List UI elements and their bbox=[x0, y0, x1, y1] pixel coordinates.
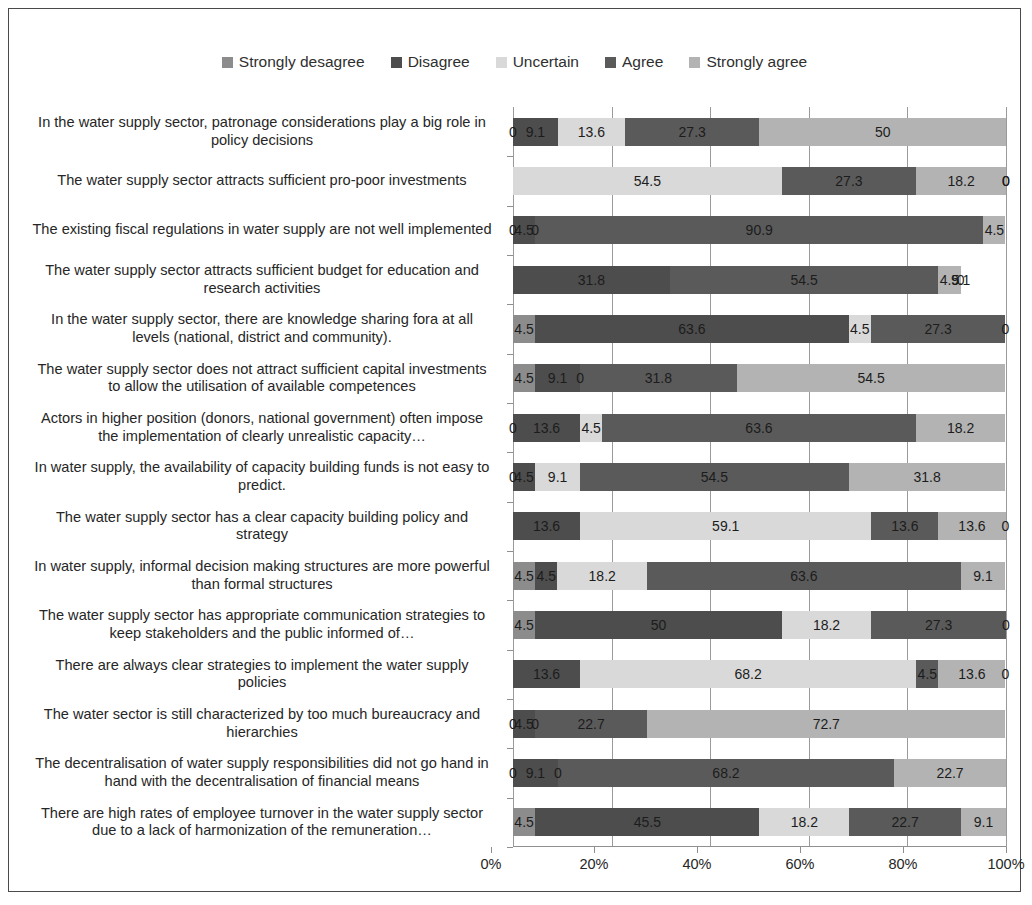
value-tick-label: 40% bbox=[682, 856, 711, 872]
value-axis: 0%20%40%60%80%100% bbox=[491, 847, 1006, 887]
bar-value-label: 63.6 bbox=[678, 321, 705, 337]
legend-item[interactable]: Strongly agree bbox=[689, 53, 807, 71]
bar-value-label: 18.2 bbox=[947, 173, 974, 189]
bar-value-label: 54.5 bbox=[790, 272, 817, 288]
value-tick-mark bbox=[697, 847, 698, 853]
bar-value-label: 18.2 bbox=[791, 814, 818, 830]
legend-label: Uncertain bbox=[513, 53, 579, 71]
value-tick-label: 20% bbox=[579, 856, 608, 872]
chart-frame: Strongly desagreeDisagreeUncertainAgreeS… bbox=[8, 8, 1021, 892]
bar-row[interactable]: 4.563.64.527.30 bbox=[513, 304, 1006, 353]
bar-segment: 63.6 bbox=[602, 414, 916, 442]
bar-value-label: 31.8 bbox=[645, 370, 672, 386]
legend-item[interactable]: Disagree bbox=[391, 53, 470, 71]
bar-segment: 18.2 bbox=[759, 808, 849, 836]
bar-row[interactable]: 54.527.318.200 bbox=[513, 156, 1006, 205]
bar-value-label: 0 bbox=[957, 272, 965, 288]
category-label-row: The water supply sector attracts suffici… bbox=[31, 156, 499, 205]
category-label-row: The water supply sector attracts suffici… bbox=[31, 255, 499, 304]
value-tick-mark bbox=[1006, 847, 1007, 853]
legend-label: Strongly agree bbox=[706, 53, 807, 71]
bar-value-label: 4.5 bbox=[514, 469, 533, 485]
bar-segment: 27.3 bbox=[871, 315, 1006, 343]
category-label: In the water supply sector, patronage co… bbox=[31, 114, 493, 150]
stacked-bar: 13.659.113.613.60 bbox=[513, 512, 1006, 540]
bar-value-label: 0 bbox=[1002, 173, 1010, 189]
category-label: There are high rates of employee turnove… bbox=[31, 805, 493, 841]
bar-value-label: 13.6 bbox=[533, 420, 560, 436]
bar-value-label: 90.9 bbox=[746, 222, 773, 238]
category-label-row: In water supply, informal decision makin… bbox=[31, 551, 499, 600]
bar-segment: 18.2 bbox=[916, 414, 1006, 442]
bar-value-label: 68.2 bbox=[735, 666, 762, 682]
bar-segment: 4.5 bbox=[513, 463, 535, 491]
bar-value-label: 18.2 bbox=[947, 420, 974, 436]
bar-row[interactable]: 4.59.1031.854.5 bbox=[513, 354, 1006, 403]
stacked-bar: 4.55018.227.30 bbox=[513, 611, 1006, 639]
bar-row[interactable]: 4.545.518.222.79.1 bbox=[513, 798, 1006, 847]
bar-segment: 50 bbox=[759, 118, 1006, 146]
bar-value-label: 4.5 bbox=[918, 666, 937, 682]
bar-value-label: 0 bbox=[509, 765, 517, 781]
plot-area: In the water supply sector, patronage co… bbox=[31, 107, 1006, 847]
legend-item[interactable]: Strongly desagree bbox=[222, 53, 365, 71]
legend-item[interactable]: Uncertain bbox=[496, 53, 579, 71]
legend-swatch-icon bbox=[605, 57, 616, 68]
bar-row[interactable]: 09.1068.222.7 bbox=[513, 748, 1006, 797]
bar-value-label: 63.6 bbox=[745, 420, 772, 436]
bar-row[interactable]: 13.659.113.613.60 bbox=[513, 502, 1006, 551]
value-tick-label: 80% bbox=[888, 856, 917, 872]
bar-segment: 18.2 bbox=[557, 562, 647, 590]
bar-row[interactable]: 4.54.518.263.69.1 bbox=[513, 551, 1006, 600]
bar-value-label: 22.7 bbox=[578, 716, 605, 732]
stacked-bar: 013.64.563.618.2 bbox=[513, 414, 1006, 442]
bar-segment: 45.5 bbox=[535, 808, 759, 836]
value-tick-mark bbox=[491, 847, 492, 853]
bar-value-label: 13.6 bbox=[533, 666, 560, 682]
bar-segment: 13.6 bbox=[513, 512, 580, 540]
category-label-row: Actors in higher position (donors, natio… bbox=[31, 403, 499, 452]
bar-value-label: 13.6 bbox=[891, 518, 918, 534]
bar-row[interactable]: 4.55018.227.30 bbox=[513, 600, 1006, 649]
bar-row[interactable]: 04.5022.772.7 bbox=[513, 699, 1006, 748]
bar-value-label: 68.2 bbox=[712, 765, 739, 781]
category-label: The water supply sector attracts suffici… bbox=[31, 172, 493, 190]
bar-value-label: 27.3 bbox=[679, 124, 706, 140]
bar-segment: 4.5 bbox=[849, 315, 871, 343]
bar-value-label: 54.5 bbox=[858, 370, 885, 386]
bar-segment: 13.6 bbox=[558, 118, 625, 146]
bar-segment: 59.1 bbox=[580, 512, 871, 540]
bar-row[interactable]: 04.5090.94.5 bbox=[513, 206, 1006, 255]
stacked-bar: 54.527.318.200 bbox=[513, 167, 1006, 195]
category-label: The decentralisation of water supply res… bbox=[31, 755, 493, 791]
stacked-bar: 4.545.518.222.79.1 bbox=[513, 808, 1006, 836]
bar-segment: 9.1 bbox=[513, 759, 558, 787]
bar-row[interactable]: 04.59.154.531.8 bbox=[513, 452, 1006, 501]
bar-value-label: 4.5 bbox=[514, 617, 533, 633]
category-label-row: The water supply sector has a clear capa… bbox=[31, 502, 499, 551]
bar-segment: 54.5 bbox=[670, 266, 939, 294]
bar-segment: 9.1 bbox=[513, 118, 558, 146]
bar-value-label: 0 bbox=[1002, 321, 1010, 337]
legend-item[interactable]: Agree bbox=[605, 53, 663, 71]
bar-segment: 4.5 bbox=[513, 808, 535, 836]
gridline bbox=[1006, 107, 1007, 847]
bar-row[interactable]: 09.113.627.350 bbox=[513, 107, 1006, 156]
bar-segment: 18.2 bbox=[916, 167, 1006, 195]
bar-value-label: 22.7 bbox=[936, 765, 963, 781]
bar-segment: 22.7 bbox=[894, 759, 1006, 787]
bar-segment: 22.7 bbox=[849, 808, 961, 836]
category-label-row: The water sector is still characterized … bbox=[31, 699, 499, 748]
bar-value-label: 0 bbox=[509, 420, 517, 436]
bar-segment: 4.5 bbox=[580, 414, 602, 442]
bar-row[interactable]: 31.854.54.59.10 bbox=[513, 255, 1006, 304]
bar-value-label: 31.8 bbox=[913, 469, 940, 485]
stacked-bar: 09.113.627.350 bbox=[513, 118, 1006, 146]
bar-value-label: 50 bbox=[875, 124, 891, 140]
bar-value-label: 0 bbox=[1002, 617, 1010, 633]
bar-value-label: 45.5 bbox=[634, 814, 661, 830]
category-label: In the water supply sector, there are kn… bbox=[31, 311, 493, 347]
bar-row[interactable]: 13.668.24.513.60 bbox=[513, 650, 1006, 699]
bar-row[interactable]: 013.64.563.618.2 bbox=[513, 403, 1006, 452]
stacked-bar: 4.59.1031.854.5 bbox=[513, 364, 1006, 392]
